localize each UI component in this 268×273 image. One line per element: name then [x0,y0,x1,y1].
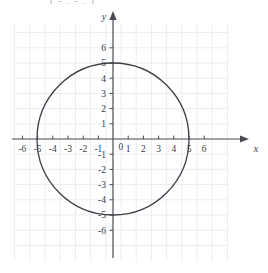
y-tick-label: -1 [98,150,106,160]
y-tick-label: 4 [101,74,106,84]
x-tick-label: -6 [18,144,26,154]
y-tick-label: -5 [98,210,106,220]
x-tick-label: 1 [126,144,131,154]
y-tick-label: -6 [98,226,106,236]
y-tick-label: -4 [98,195,106,205]
y-tick-label: -3 [98,180,106,190]
x-tick-label: -2 [79,144,87,154]
x-tick-label: 6 [202,144,207,154]
y-tick-label: 2 [101,104,106,114]
y-tick-label: 5 [101,58,106,68]
x-axis-label: x [253,143,259,154]
y-tick-label: 1 [101,119,106,129]
x-tick-label: 3 [156,144,161,154]
cutoff-title-fragment: ( - , - , ) [50,0,170,4]
graph-canvas: -6 -5 -4 -3 -2 -1 1 2 3 4 5 6 0 6 5 4 3 … [0,0,268,273]
x-tick-label: -4 [49,144,57,154]
y-axis-label: y [101,11,107,22]
y-axis-arrow-icon [109,11,116,20]
y-tick-label: 3 [101,89,106,99]
x-tick-label: -3 [64,144,72,154]
y-tick-label: -2 [98,165,106,175]
x-tick-label: 5 [187,144,192,154]
origin-label: 0 [119,142,124,152]
y-tick-label: 6 [101,43,106,53]
x-tick-label: 2 [141,144,146,154]
x-tick-label: 4 [171,144,176,154]
x-tick-label: -5 [34,144,42,154]
coordinate-plane-figure: ( - , - , ) [0,0,268,273]
x-axis-arrow-icon [240,135,249,142]
axis-lines [12,15,243,258]
